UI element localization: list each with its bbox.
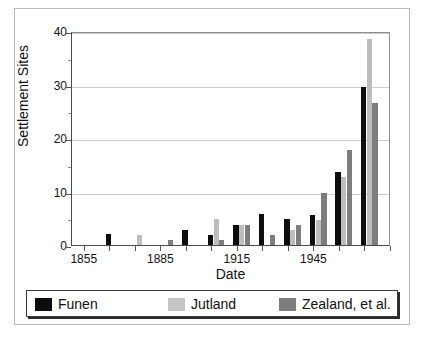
bars-layer [72, 33, 389, 245]
x-tick-1965 [364, 246, 365, 251]
legend-swatch-zealand [279, 298, 296, 311]
bar-zealand-1905 [219, 240, 224, 245]
y-tick-minor-5 [68, 220, 71, 221]
bar-zealand-1955 [347, 150, 352, 245]
bar-zealand-1945 [321, 193, 326, 245]
bar-jutland-1965 [367, 39, 372, 246]
legend-label-jutland: Jutland [191, 297, 236, 312]
x-axis-title: Date [71, 266, 390, 282]
x-tick-1935 [288, 246, 289, 251]
bar-jutland-1915 [239, 225, 244, 245]
y-tick-label-group: 010203040 [35, 32, 67, 246]
plot-wrapper: Settlement Sites 010203040 1855188519151… [0, 0, 425, 338]
x-tick-1905 [211, 246, 212, 251]
y-tick-label-30: 30 [37, 80, 67, 92]
bar-funen-1945 [310, 215, 315, 245]
bar-jutland-1875 [137, 235, 142, 245]
bar-zealand-1935 [296, 225, 301, 245]
chart-figure: Settlement Sites 010203040 1855188519151… [0, 0, 425, 338]
y-tick-label-20: 20 [37, 133, 67, 145]
legend-item-zealand: Zealand, et al. [279, 295, 391, 313]
bar-funen-1905 [208, 235, 213, 245]
legend-item-funen: Funen [35, 295, 98, 313]
y-tick-40 [66, 33, 71, 34]
legend-item-jutland: Jutland [168, 295, 236, 313]
x-tick-1855 [84, 246, 85, 251]
bar-zealand-1965 [372, 103, 377, 245]
x-tick-label-1855: 1855 [70, 252, 97, 266]
x-tick-1865 [109, 246, 110, 251]
bar-zealand-1885 [168, 240, 173, 245]
bar-funen-1925 [259, 214, 264, 245]
y-tick-minor-25 [68, 113, 71, 114]
legend-label-zealand: Zealand, et al. [302, 297, 391, 312]
x-tick-1895 [186, 246, 187, 251]
y-tick-label-0: 0 [37, 240, 67, 252]
x-tick-1945 [313, 246, 314, 251]
x-tick-1885 [160, 246, 161, 251]
y-tick-10 [66, 194, 71, 195]
x-tick-label-1885: 1885 [147, 252, 174, 266]
y-tick-label-40: 40 [37, 26, 67, 38]
y-tick-minor-15 [68, 167, 71, 168]
bar-funen-1965 [361, 87, 366, 245]
x-tick-label-1915: 1915 [224, 252, 251, 266]
legend-label-funen: Funen [58, 297, 98, 312]
x-tick-1925 [262, 246, 263, 251]
bar-jutland-1945 [316, 220, 321, 245]
bar-funen-1935 [284, 219, 289, 245]
x-tick-1975 [390, 246, 391, 251]
bar-funen-1895 [182, 230, 187, 245]
bar-funen-1915 [233, 225, 238, 245]
y-tick-30 [66, 87, 71, 88]
legend-swatch-funen [35, 298, 52, 311]
y-axis-title: Settlement Sites [15, 11, 31, 181]
plot-area [71, 32, 390, 246]
y-tick-label-10: 10 [37, 187, 67, 199]
bar-jutland-1955 [341, 177, 346, 245]
bar-jutland-1935 [290, 230, 295, 246]
chart-legend: Funen Jutland Zealand, et al. [26, 290, 398, 317]
x-tick-label-1945: 1945 [300, 252, 327, 266]
bar-zealand-1915 [245, 225, 250, 245]
x-tick-1875 [135, 246, 136, 251]
y-tick-20 [66, 140, 71, 141]
x-tick-1915 [237, 246, 238, 251]
bar-funen-1955 [335, 172, 340, 245]
bar-zealand-1925 [270, 235, 275, 245]
bar-funen-1865 [106, 234, 111, 245]
x-tick-1955 [339, 246, 340, 251]
y-tick-minor-35 [68, 60, 71, 61]
bar-jutland-1905 [214, 219, 219, 245]
legend-swatch-jutland [168, 298, 185, 311]
